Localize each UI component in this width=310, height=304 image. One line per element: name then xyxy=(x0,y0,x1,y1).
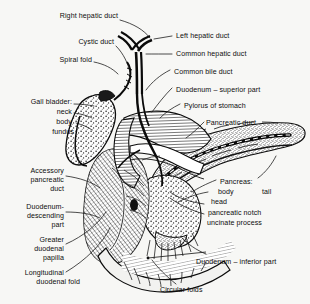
label-common-hepatic-duct: Common hepatic duct xyxy=(176,50,247,58)
label-duodenum-descending-line1: Duodenum- xyxy=(0,203,64,211)
label-pancreas-body: body xyxy=(218,188,234,196)
label-uncinate-process: uncinate process xyxy=(207,219,262,227)
anatomical-figure: Right hepatic duct Cystic duct Spiral fo… xyxy=(0,0,310,304)
label-spiral-fold: Spiral fold xyxy=(22,56,92,64)
label-left-hepatic-duct: Left hepatic duct xyxy=(176,32,229,40)
label-gall-bladder-body: body xyxy=(4,118,72,126)
label-greater-duodenal-papilla-line3: papilla xyxy=(0,254,64,262)
label-pancreas: Pancreas: xyxy=(220,178,253,186)
label-accessory-pancreatic-duct-line2: pancreatic xyxy=(0,176,64,184)
label-duodenum-descending-line3: part xyxy=(0,221,64,229)
label-gall-bladder-fundus: fundus xyxy=(4,128,74,136)
label-cystic-duct: Cystic duct xyxy=(24,38,114,46)
label-right-hepatic-duct: Right hepatic duct xyxy=(6,12,118,20)
pancreas-head xyxy=(141,175,201,250)
label-longitudinal-duodenal-fold-line2: duodenal fold xyxy=(0,278,80,286)
label-pylorus-of-stomach: Pylorus of stomach xyxy=(184,102,246,110)
label-circular-folds: Circular folds xyxy=(160,286,203,294)
label-greater-duodenal-papilla-line2: duodenal xyxy=(0,245,64,253)
label-pancreas-head: head xyxy=(211,198,227,206)
label-duodenum-superior-part: Duodenum – superior part xyxy=(176,86,260,94)
label-pancreatic-duct: Pancreatic duct xyxy=(206,119,256,127)
label-accessory-pancreatic-duct-line3: duct xyxy=(0,185,64,193)
label-greater-duodenal-papilla-line1: Greater xyxy=(0,236,64,244)
label-duodenum-descending-line2: descending xyxy=(0,212,64,220)
label-accessory-pancreatic-duct-line1: Accessory xyxy=(0,167,64,175)
label-duodenum-inferior-part: Duodenum – inferior part xyxy=(196,258,276,266)
label-longitudinal-duodenal-fold-line1: Longitudinal xyxy=(0,269,64,277)
label-gall-bladder-neck: neck xyxy=(4,108,72,116)
label-common-bile-duct: Common bile duct xyxy=(174,68,232,76)
label-gall-bladder: Gall bladder: xyxy=(4,98,72,106)
label-pancreatic-notch: pancreatic notch xyxy=(208,209,261,217)
label-pancreas-tail: tail xyxy=(262,188,271,196)
